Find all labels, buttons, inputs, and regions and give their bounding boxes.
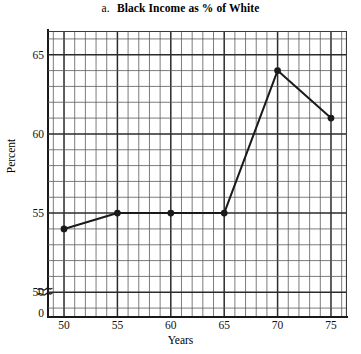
chart-figure: a.Black Income as % of White 050556065 P… — [0, 0, 361, 354]
data-point-marker — [167, 210, 174, 217]
y-tick-label: 65 — [4, 49, 48, 61]
y-tick-label: 55 — [4, 207, 48, 219]
x-tick-label: 75 — [311, 319, 351, 332]
data-point-marker — [114, 210, 121, 217]
data-point-marker — [274, 67, 281, 74]
data-point-marker — [328, 115, 335, 122]
page-title: a.Black Income as % of White — [0, 1, 361, 15]
data-point-marker — [61, 226, 68, 233]
x-axis-title: Years — [0, 334, 361, 346]
title-index: a. — [101, 2, 109, 14]
x-tick-label: 55 — [97, 319, 137, 332]
x-tick-label: 60 — [151, 319, 191, 332]
plot-area — [48, 31, 347, 316]
data-series-line — [48, 31, 347, 316]
x-tick-label: 50 — [44, 319, 84, 332]
y-tick-label: 0 — [4, 307, 48, 319]
title-text: Black Income as % of White — [117, 2, 260, 14]
data-point-marker — [221, 210, 228, 217]
series-polyline — [64, 71, 331, 229]
y-axis-title: Percent — [5, 121, 17, 191]
axis-break-icon — [36, 284, 54, 300]
x-axis-line — [47, 316, 348, 318]
x-tick-label: 70 — [258, 319, 298, 332]
x-tick-label: 65 — [204, 319, 244, 332]
